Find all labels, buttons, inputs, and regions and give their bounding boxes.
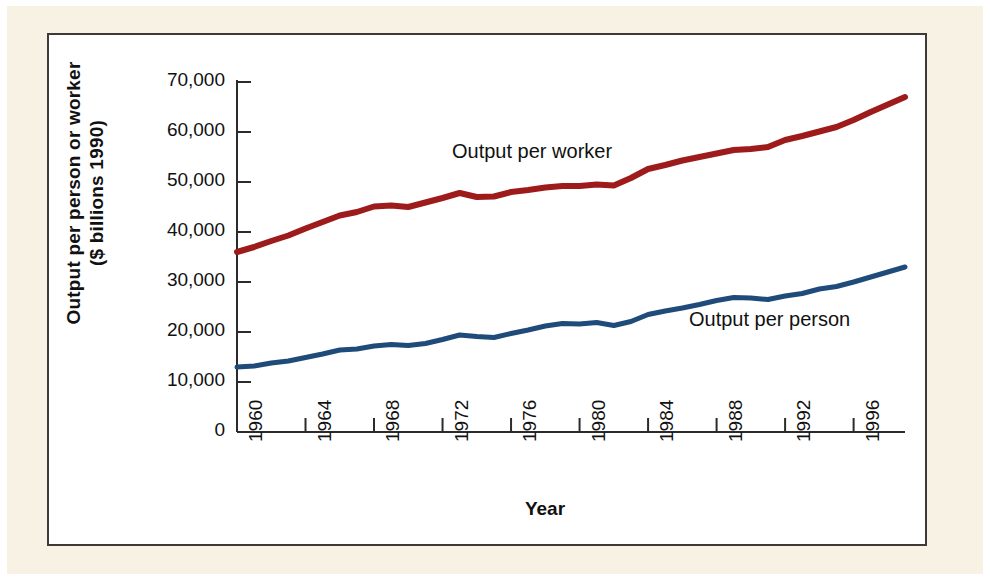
y-tick-label: 20,000 bbox=[133, 319, 225, 341]
series-label-output-per-worker: Output per worker bbox=[452, 140, 612, 163]
x-tick-label: 1964 bbox=[314, 400, 336, 442]
y-tick-label: 50,000 bbox=[133, 169, 225, 191]
figure-root: Output per person or worker ($ billions … bbox=[0, 0, 990, 581]
y-tick-label: 40,000 bbox=[133, 219, 225, 241]
x-tick-label: 1960 bbox=[245, 400, 267, 442]
y-tick-label: 0 bbox=[133, 419, 225, 441]
series-label-output-per-person: Output per person bbox=[689, 308, 850, 331]
y-tick-label: 60,000 bbox=[133, 119, 225, 141]
y-axis-title-line1: Output per person or worker bbox=[63, 62, 84, 325]
x-tick-label: 1972 bbox=[451, 400, 473, 442]
y-tick-marks bbox=[237, 82, 251, 382]
y-tick-label: 70,000 bbox=[133, 69, 225, 91]
x-tick-label: 1992 bbox=[793, 400, 815, 442]
x-tick-label: 1980 bbox=[588, 400, 610, 442]
y-tick-label: 30,000 bbox=[133, 269, 225, 291]
x-tick-label: 1984 bbox=[656, 400, 678, 442]
series-line-output-per-worker bbox=[237, 97, 905, 252]
x-tick-label: 1988 bbox=[725, 400, 747, 442]
x-tick-label: 1976 bbox=[519, 400, 541, 442]
x-tick-label: 1968 bbox=[382, 400, 404, 442]
y-axis-title-line2: ($ billions 1990) bbox=[86, 120, 107, 266]
x-axis-title: Year bbox=[490, 498, 600, 520]
x-tick-label: 1996 bbox=[862, 400, 884, 442]
y-tick-label: 10,000 bbox=[133, 369, 225, 391]
y-axis-title: Output per person or worker ($ billions … bbox=[62, 48, 108, 338]
